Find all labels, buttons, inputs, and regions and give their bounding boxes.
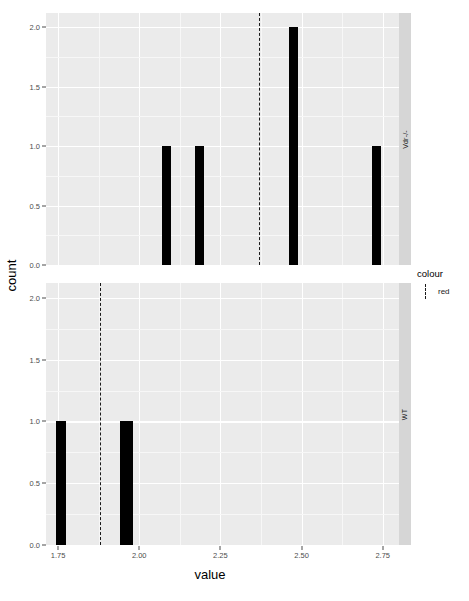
x-axis-tick-mark: [220, 546, 221, 550]
legend-title: colour: [417, 268, 450, 279]
x-axis-tick-label: 2.50: [294, 551, 309, 560]
x-axis-tick-label: 2.00: [132, 551, 147, 560]
legend: colour red: [417, 268, 450, 300]
x-axis-tick-label: 1.75: [51, 551, 66, 560]
x-axis-tick-mark: [301, 546, 302, 550]
x-axis-tick-mark: [139, 546, 140, 550]
x-axis-tick-mark: [58, 546, 59, 550]
x-axis-tick-label: 2.25: [213, 551, 228, 560]
x-axis-tick-mark: [382, 546, 383, 550]
legend-items: red: [417, 283, 450, 300]
chart-figure: count value 0.00.51.01.52.0 0.00.51.01.5…: [0, 0, 469, 601]
legend-key-dashed-line-icon: [417, 283, 434, 300]
legend-item-label: red: [438, 287, 450, 296]
x-axis-tick-label: 2.75: [375, 551, 390, 560]
legend-item[interactable]: red: [417, 283, 450, 300]
x-axis-ticks: 1.752.002.252.502.75: [0, 0, 469, 601]
